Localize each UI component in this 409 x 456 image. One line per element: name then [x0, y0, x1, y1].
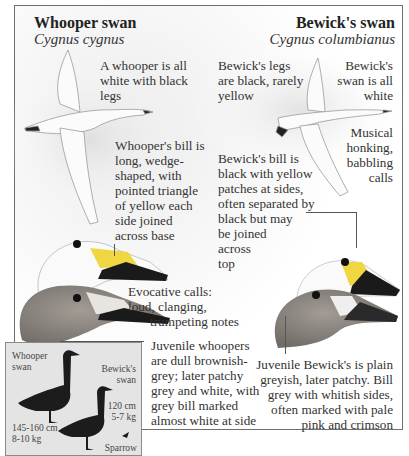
label-line: swan [12, 362, 47, 373]
note-line: babbling [346, 155, 393, 170]
whooper-calls-note: Evocative calls: loud, clanging, trumpet… [128, 284, 239, 329]
label-line: 5-7 kg [108, 412, 136, 423]
bewicks-calls-note: Musical honking, babbling calls [346, 125, 393, 185]
whooper-title: Whooper swan [34, 14, 136, 31]
sparrow-silhouette-icon [122, 432, 129, 438]
note-line: trumpeting notes [128, 314, 239, 329]
bewicks-latin-name: Cygnus columbianus [270, 31, 395, 48]
note-line: across base [115, 228, 205, 243]
note-line: are black, rarely [218, 73, 303, 88]
note-line: loud, clanging, [128, 299, 239, 314]
note-line: Juvenile whoopers [151, 338, 259, 353]
sparrow-label: Sparrow [105, 443, 137, 454]
bewicks-bill-note: Bewick's bill is black with yellow patch… [218, 151, 315, 271]
label-line: Bewick's [102, 364, 136, 375]
note-line: Juvenile Bewick's is plain [256, 357, 393, 372]
note-line: swan is all [337, 73, 393, 88]
note-line: yellow [218, 88, 303, 103]
note-line: Evocative calls: [128, 284, 239, 299]
note-line: grey with whitish sides, [256, 387, 393, 402]
note-line: grey bill marked [151, 398, 259, 413]
note-line: honking, [346, 140, 393, 155]
note-line: patches at sides, [218, 181, 315, 196]
label-line: 145-160 cm [12, 423, 58, 434]
note-line: long, wedge- [115, 153, 205, 168]
size-comparison-inset: Whooper swan Bewick's swan 120 cm 5-7 kg… [5, 342, 142, 456]
note-line: often marked with pale [256, 402, 393, 417]
note-line: calls [346, 170, 393, 185]
bewicks-title: Bewick's swan [296, 14, 395, 31]
leader-line-bewicks-juvenile [285, 316, 286, 354]
note-line: side joined [115, 213, 205, 228]
note-line: Whooper's bill is [115, 138, 205, 153]
leader-line-bewicks-bill-v [356, 212, 357, 248]
note-line: legs [100, 88, 188, 103]
whooper-juvenile-note: Juvenile whoopers are dull brownish- gre… [151, 338, 259, 428]
note-line: white [337, 88, 393, 103]
label-line: 8-10 kg [12, 434, 58, 445]
note-line: black but may [218, 211, 315, 226]
label-line: swan [102, 375, 136, 386]
note-line: top [218, 256, 315, 271]
whooper-latin-name: Cygnus cygnus [34, 31, 124, 48]
note-line: of yellow each [115, 198, 205, 213]
bewicks-plumage-note: Bewick's swan is all white [337, 58, 393, 103]
note-line: be joined [218, 226, 315, 241]
whooper-silhouette-label: Whooper swan [12, 351, 47, 373]
note-line: Bewick's [337, 58, 393, 73]
label-line: 120 cm [108, 401, 136, 412]
note-line: grey; later patchy [151, 368, 259, 383]
note-line: A whooper is all [100, 58, 188, 73]
note-line: often separated by [218, 196, 315, 211]
note-line: are dull brownish- [151, 353, 259, 368]
bewicks-silhouette-label: Bewick's swan [102, 364, 136, 386]
whooper-bill-note: Whooper's bill is long, wedge- shaped, w… [115, 138, 205, 243]
note-line: almost white at side [151, 413, 259, 428]
note-line: greyish, later patchy. Bill [256, 372, 393, 387]
note-line: pointed triangle [115, 183, 205, 198]
leader-line-whooper-bill [114, 244, 115, 256]
note-line: pink and crimson [256, 417, 393, 432]
note-line: across [218, 241, 315, 256]
whooper-plumage-note: A whooper is all white with black legs [100, 58, 188, 103]
note-line: shaped, with [115, 168, 205, 183]
bewicks-juvenile-head [275, 289, 398, 348]
bewicks-juvenile-note: Juvenile Bewick's is plain greyish, late… [256, 357, 393, 432]
note-line: black with yellow [218, 166, 315, 181]
whooper-size-label: 145-160 cm 8-10 kg [12, 423, 58, 445]
note-line: Bewick's bill is [218, 151, 315, 166]
bewicks-size-label: 120 cm 5-7 kg [108, 401, 136, 423]
note-line: white with black [100, 73, 188, 88]
label-line: Whooper [12, 351, 47, 362]
note-line: Musical [346, 125, 393, 140]
bewicks-legs-note: Bewick's legs are black, rarely yellow [218, 58, 303, 103]
note-line: grey and white, with [151, 383, 259, 398]
note-line: Bewick's legs [218, 58, 303, 73]
